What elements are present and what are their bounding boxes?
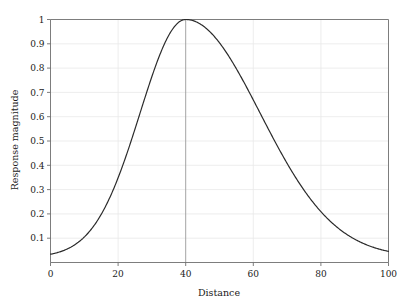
x-tick-label: 0 bbox=[48, 269, 54, 279]
y-axis-title: Response magnitude bbox=[9, 89, 20, 190]
response-magnitude-line-chart: 020406080100 0.10.20.30.40.50.60.70.80.9… bbox=[0, 0, 407, 306]
x-tick-label: 80 bbox=[315, 269, 327, 279]
y-tick-label: 0.1 bbox=[30, 233, 44, 243]
x-tick-label: 100 bbox=[380, 269, 397, 279]
y-tick-label: 0.3 bbox=[30, 185, 45, 195]
x-tick-label: 60 bbox=[248, 269, 260, 279]
y-tick-label: 0.4 bbox=[30, 161, 45, 171]
chart-figure: 020406080100 0.10.20.30.40.50.60.70.80.9… bbox=[0, 0, 407, 306]
x-axis-title: Distance bbox=[198, 287, 240, 298]
y-tick-label: 0.2 bbox=[30, 209, 44, 219]
y-tick-label: 0.6 bbox=[30, 112, 45, 122]
x-tick-label: 40 bbox=[180, 269, 192, 279]
y-tick-label: 0.9 bbox=[30, 39, 45, 49]
x-tick-label: 20 bbox=[112, 269, 124, 279]
chart-background bbox=[0, 0, 407, 306]
y-tick-label: 1 bbox=[39, 15, 45, 25]
y-tick-label: 0.5 bbox=[30, 136, 45, 146]
y-tick-label: 0.8 bbox=[30, 63, 45, 73]
y-tick-label: 0.7 bbox=[30, 88, 45, 98]
